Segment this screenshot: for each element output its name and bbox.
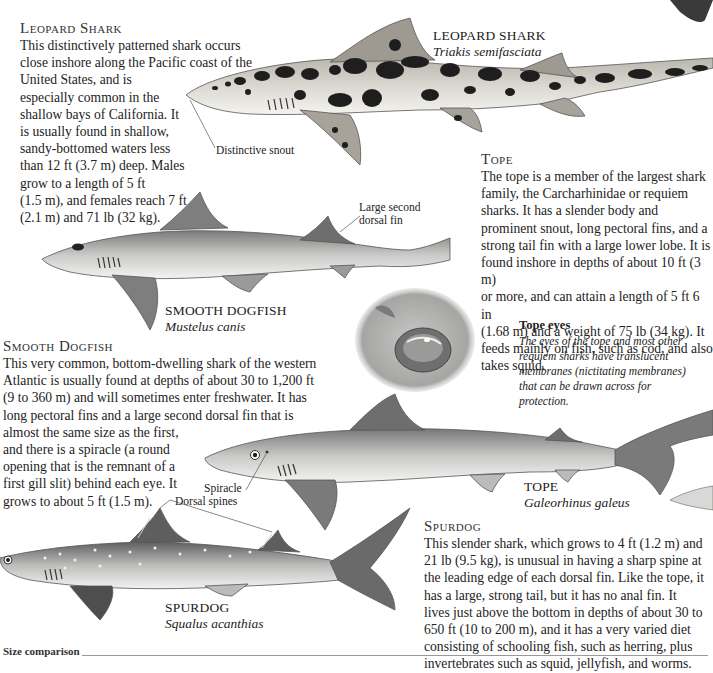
size-comparison-label: Size comparison	[3, 645, 80, 657]
spiracle-annotation: Spiracle	[204, 482, 242, 495]
distinctive-snout-annotation: Distinctive snout	[216, 144, 294, 157]
spurdog-description: This slender shark, which grows to 4 ft …	[424, 535, 713, 673]
spurdog-label-latin: Squalus acanthias	[165, 616, 264, 632]
leopard-shark-label-latin: Triakis semifasciata	[433, 44, 541, 60]
spurdog-heading: Spurdog	[424, 517, 481, 535]
leopard-shark-illustration	[0, 0, 713, 180]
large-second-dorsal-fin-annotation: Large second dorsal fin	[359, 201, 420, 227]
leopard-shark-label-name: LEOPARD SHARK	[433, 28, 546, 44]
smooth-dogfish-label-latin: Mustelus canis	[165, 319, 246, 335]
size-comparison-rule	[82, 655, 708, 656]
tope-eyes-title: Tope eyes	[519, 318, 570, 333]
smooth-dogfish-heading: Smooth Dogfish	[3, 337, 113, 355]
spurdog-label-name: SPURDOG	[165, 600, 229, 616]
tope-heading: Tope	[481, 150, 513, 168]
dorsal-spines-annotation: Dorsal spines	[175, 495, 237, 508]
tope-label-latin: Galeorhinus galeus	[524, 495, 630, 511]
tope-illustration	[200, 380, 713, 520]
tope-label-name: TOPE	[524, 479, 558, 495]
smooth-dogfish-label-name: SMOOTH DOGFISH	[165, 303, 287, 319]
